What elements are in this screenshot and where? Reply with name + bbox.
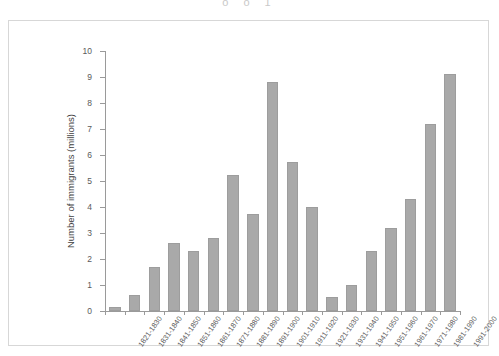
y-tick-label: 1: [87, 281, 92, 290]
bar: [227, 175, 238, 312]
bar: [326, 297, 337, 311]
bar: [267, 82, 278, 311]
x-axis-labels: 1821-18301831-18401841-18501851-18601861…: [105, 315, 461, 356]
y-tick-label: 3: [87, 229, 92, 238]
bar: [346, 285, 357, 311]
y-tick-label: 10: [83, 47, 92, 56]
bar: [247, 214, 258, 312]
bar: [287, 162, 298, 312]
bar: [129, 295, 140, 311]
y-tick-label: 9: [87, 73, 92, 82]
y-tick-label: 5: [87, 177, 92, 186]
y-tick-label: 6: [87, 151, 92, 160]
y-axis-title: Number of immigrants (millions): [65, 51, 77, 311]
figure-page: o o 1 Number of immigrants (millions) 01…: [0, 0, 499, 356]
y-tick-label: 4: [87, 203, 92, 212]
y-tick-label: 0: [87, 307, 92, 316]
bar: [168, 243, 179, 311]
bar: [306, 207, 317, 311]
bar: [425, 124, 436, 311]
bar-series: [105, 51, 460, 311]
figure-frame: Number of immigrants (millions) 01234567…: [8, 20, 489, 346]
plot-area: 012345678910: [105, 51, 460, 311]
bar: [385, 228, 396, 311]
bar: [366, 251, 377, 311]
bar: [208, 238, 219, 311]
bar: [188, 251, 199, 311]
bar: [405, 199, 416, 311]
cropped-caption-text: o o 1: [0, 0, 499, 10]
y-tick-label: 8: [87, 99, 92, 108]
bar: [149, 267, 160, 311]
y-tick-label: 2: [87, 255, 92, 264]
y-tick-label: 7: [87, 125, 92, 134]
bar: [444, 74, 455, 311]
